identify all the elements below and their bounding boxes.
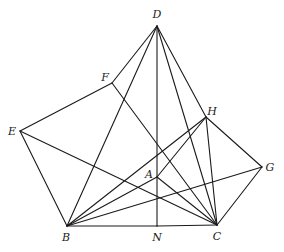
- segment-dh: [157, 26, 206, 117]
- segment-df: [112, 26, 157, 83]
- segment-hg: [206, 117, 262, 167]
- segment-ha: [157, 117, 206, 177]
- point-label-c: C: [213, 230, 222, 243]
- segment-gc: [217, 167, 262, 225]
- segment-nc: [157, 225, 217, 226]
- label-group: D F E H G A B N C: [7, 8, 275, 244]
- point-label-e: E: [7, 125, 16, 138]
- point-label-g: G: [266, 161, 275, 174]
- segment-bg: [67, 167, 262, 226]
- point-label-n: N: [151, 231, 162, 244]
- segment-eb: [20, 131, 67, 226]
- point-label-h: H: [206, 105, 217, 118]
- point-label-f: F: [100, 71, 109, 84]
- segment-hc: [206, 117, 217, 225]
- segment-fe: [20, 83, 112, 131]
- segment-fc: [112, 83, 217, 225]
- point-label-a: A: [144, 168, 153, 181]
- point-label-d: D: [152, 8, 162, 21]
- geometry-diagram: D F E H G A B N C: [0, 0, 284, 252]
- point-label-b: B: [61, 231, 70, 244]
- segment-ba: [67, 177, 157, 226]
- segment-group: [20, 26, 262, 226]
- segment-dc: [157, 26, 217, 225]
